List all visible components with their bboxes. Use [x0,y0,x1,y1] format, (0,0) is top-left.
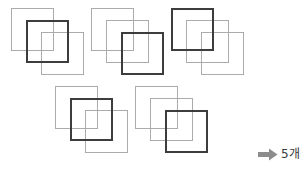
answer-callout: 5개 [258,148,300,161]
square-middle [26,20,69,63]
square-front [165,110,208,153]
answer-label: 5개 [281,148,300,161]
square-front [121,32,164,75]
figure-canvas [0,0,302,170]
arrow-right-icon [258,148,278,161]
square-middle [70,98,113,141]
square-back [171,8,214,51]
